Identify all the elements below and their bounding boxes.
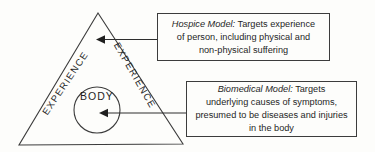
experience-left-label: EXPERIENCE [40,49,91,117]
biomedical-arrowhead-icon [99,109,108,117]
biomedical-box-line-2: underlying causes of symptoms, [206,96,337,109]
experience-right-label: EXPERIENCE [112,40,159,110]
hospice-box-line-3: non-physical suffering [199,44,288,57]
biomedical-box-line-4: in the body [249,122,294,135]
hospice-box-line-1: Hospice Model: Targets experience [172,18,315,31]
body-label: BODY [80,90,114,102]
biomedical-box-line-3: presumed to be diseases and injuries [195,109,347,122]
hospice-model-title: Hospice Model: [172,19,235,29]
hospice-box-line-2: of person, including physical and [177,31,310,44]
biomedical-box-line-1-text: Targets [293,84,326,94]
hospice-box-line-1-text: Targets experience [235,19,315,29]
biomedical-model-title: Biomedical Model: [218,84,293,94]
triangle-model-diagram: EXPERIENCE EXPERIENCE BODY Hospice Model… [0,0,375,152]
hospice-arrowhead-icon [96,35,105,43]
biomedical-box-line-1: Biomedical Model: Targets [218,83,326,96]
biomedical-model-box: Biomedical Model: Targets underlying cau… [186,81,357,137]
hospice-model-box: Hospice Model: Targets experience of per… [157,13,330,61]
